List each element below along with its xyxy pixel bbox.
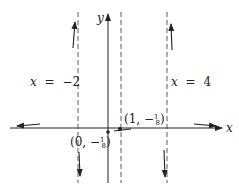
point-label-1: (1, −18) xyxy=(124,112,165,127)
y-axis-label: y xyxy=(96,11,104,25)
point-1-neg-eighth xyxy=(118,127,122,131)
branch-arrow-left-up xyxy=(73,22,75,48)
branch-arrow-far-left xyxy=(17,124,40,126)
branch-arrow-far-right xyxy=(194,124,216,126)
point-0-neg-eighth xyxy=(106,130,110,134)
asymptote-label-4: x = 4 xyxy=(171,75,212,89)
branch-arrow-right-down xyxy=(164,150,165,177)
x-axis-label: x xyxy=(226,121,233,135)
graph-canvas: x y x = −2 x = 4 (1, −1 xyxy=(0,0,239,193)
asymptote-label-neg2: x = −2 xyxy=(30,75,80,89)
point-label-0: (0, −18) xyxy=(70,135,111,150)
middle-branch-segment xyxy=(114,129,131,131)
curve-branches xyxy=(17,22,216,177)
branch-arrow-left-down xyxy=(79,152,80,176)
branch-arrow-right-up xyxy=(171,24,172,50)
